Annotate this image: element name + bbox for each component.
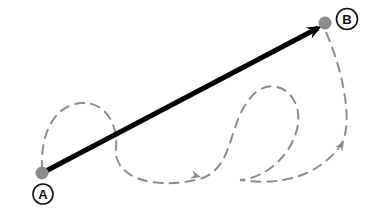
node-b-label: B [342, 12, 351, 27]
node-a-label: A [38, 187, 48, 202]
diagram-canvas: A B [0, 0, 370, 208]
node-b-marker-dot [319, 17, 332, 30]
node-a-marker-dot [36, 167, 49, 180]
path-diagram: A B [0, 0, 370, 208]
